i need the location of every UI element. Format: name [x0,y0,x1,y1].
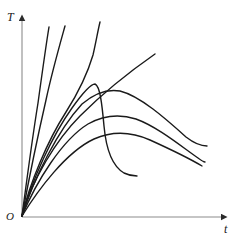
curve-2-steep [22,26,65,216]
figure-container: T t O [0,0,235,242]
curve-8-rise-and-fall [22,84,137,216]
y-axis-label: T [7,11,14,23]
axis-group [22,20,222,217]
origin-label: O [6,211,14,222]
curve-3-steep-inflected [22,22,100,216]
x-axis-label: t [224,223,227,235]
curve-family [22,22,207,216]
plot-area [0,0,235,242]
curve-6-broad-max-mid [22,116,205,216]
